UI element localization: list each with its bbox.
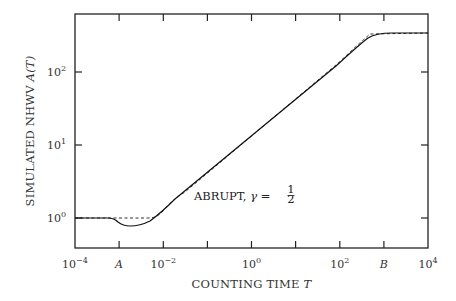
y-tick-label: 100 xyxy=(47,210,66,225)
y-tick-label: 101 xyxy=(47,137,66,152)
x-ticks xyxy=(119,14,384,248)
chart: 10−4 A 10−2 100 102 B 104 100 101 102 CO… xyxy=(0,0,456,301)
x-axis-title: COUNTING TIME T xyxy=(192,277,313,291)
x-tick-label-A: A xyxy=(114,258,123,271)
x-tick-label: 10−2 xyxy=(150,256,176,271)
curve-annotation: ABRUPT, γ = xyxy=(193,189,270,203)
y-tick-label: 102 xyxy=(47,64,66,79)
x-tick-label: 104 xyxy=(418,256,437,271)
y-axis-title: SIMULATED NHWV A(T) xyxy=(23,56,37,207)
svg-text:2: 2 xyxy=(287,192,294,206)
x-tick-label: 10−4 xyxy=(62,256,88,271)
x-tick-label: 100 xyxy=(242,256,261,271)
plot-frame xyxy=(75,14,428,248)
fraction-one-half: 1 2 xyxy=(287,182,294,206)
x-tick-labels: 10−4 A 10−2 100 102 B 104 xyxy=(62,256,437,271)
x-tick-label: 102 xyxy=(330,256,349,271)
y-tick-labels: 100 101 102 xyxy=(47,64,66,225)
x-tick-label-B: B xyxy=(379,258,388,271)
